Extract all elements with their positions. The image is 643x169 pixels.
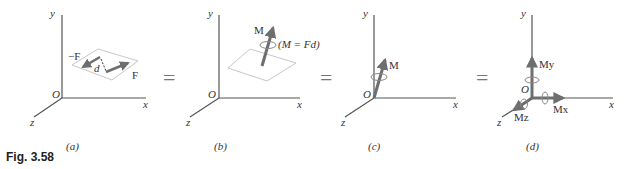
z-axis-label: z — [185, 116, 191, 128]
x-axis-label: x — [296, 98, 302, 110]
y-axis-label: y — [362, 7, 368, 19]
z-axis-label: z — [496, 116, 502, 128]
origin-label: O — [52, 88, 60, 100]
panel-label: (d) — [526, 140, 539, 153]
panel-b: y x z O M (M = Fd) (b) — [185, 7, 320, 153]
z-axis-label: z — [340, 116, 346, 128]
equals-sign: = — [320, 65, 332, 90]
panel-c: y x z O M (c) — [340, 7, 458, 153]
x-axis-label: x — [142, 98, 148, 110]
equals-sign: = — [476, 65, 488, 90]
x-axis-label: x — [608, 98, 614, 110]
z-axis-label: z — [29, 116, 35, 128]
y-axis-label: y — [207, 7, 213, 19]
moment-label: M — [389, 59, 399, 71]
distance-label: d — [94, 62, 100, 74]
figure-diagram: y x z O −F F d (a) = y x z O M (M = Fd) … — [0, 0, 643, 169]
x-axis-label: x — [452, 98, 458, 110]
figure-caption: Fig. 3.58 — [6, 150, 54, 164]
origin-label: O — [208, 88, 216, 100]
force-label: F — [132, 69, 138, 81]
panel-label: (c) — [368, 140, 381, 153]
origin-label: O — [363, 88, 371, 100]
panel-label: (a) — [66, 140, 79, 153]
moment-z-label: Mz — [514, 111, 529, 123]
panel-d: y x z O My Mx Mz (d) — [496, 7, 614, 153]
moment-equation: (M = Fd) — [278, 38, 320, 51]
y-axis-label: y — [520, 7, 526, 19]
force-neg-label: −F — [68, 50, 80, 62]
moment-x-label: Mx — [553, 103, 569, 115]
origin-label: O — [521, 83, 529, 95]
moment-y-label: My — [539, 58, 555, 70]
panel-a: y x z O −F F d (a) — [29, 7, 148, 153]
moment-label: M — [254, 24, 264, 36]
y-axis-label: y — [49, 7, 55, 19]
panel-label: (b) — [214, 140, 227, 153]
equals-sign: = — [163, 65, 175, 90]
